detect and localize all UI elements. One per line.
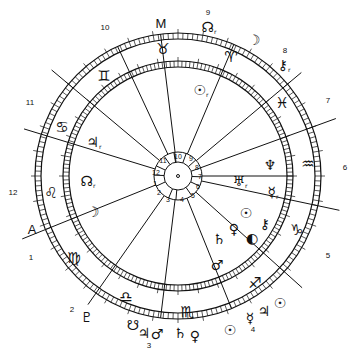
inner-degree-tick (66, 202, 72, 203)
outer-degree-tick (273, 73, 277, 77)
inner-degree-tick (83, 237, 88, 240)
retrograde-marker: r (276, 193, 278, 200)
inner-degree-tick (285, 152, 291, 153)
inner-house-number: 9 (189, 155, 193, 162)
outer-degree-tick (49, 113, 54, 116)
inner-house-number: 7 (198, 173, 202, 180)
ascendant-label: A (28, 223, 37, 236)
inner-degree-tick (283, 144, 289, 146)
outer-degree-tick (211, 309, 212, 315)
inner-degree-tick (83, 112, 88, 115)
outer-degree-tick (36, 195, 42, 196)
outer-degree-tick (120, 45, 122, 50)
outer-degree-tick (303, 232, 308, 234)
virgo-icon: ♍ (67, 251, 80, 266)
outer-house-number: 2 (70, 306, 74, 314)
inner-degree-tick (284, 148, 290, 149)
outer-degree-tick (289, 92, 294, 96)
inner-degree-tick (135, 277, 137, 283)
outer-degree-tick (292, 96, 297, 99)
outer-degree-tick (192, 34, 193, 40)
inner-degree-tick (283, 206, 289, 208)
inner-house-number: 2 (157, 189, 161, 196)
transit-venus-icon: ♀ (190, 329, 200, 343)
outer-degree-tick (33, 150, 43, 152)
inner-degree-tick (69, 210, 75, 212)
outer-degree-tick (143, 37, 144, 43)
outer-degree-tick (277, 271, 281, 275)
outer-degree-tick (305, 227, 311, 229)
natal-neptune-icon: ♆ (264, 158, 277, 172)
outer-degree-tick (90, 284, 94, 289)
outer-degree-tick (41, 137, 47, 139)
inner-degree-tick (270, 234, 275, 237)
inner-degree-tick (245, 262, 249, 267)
outer-degree-tick (36, 156, 42, 157)
inner-house-number: 6 (196, 183, 200, 190)
outer-degree-tick (90, 63, 94, 68)
transit-mars-2-icon: ♂ (151, 327, 164, 341)
outer-degree-tick (273, 275, 277, 279)
outer-degree-tick (45, 122, 51, 124)
natal-jupiter-icon: ♃r (86, 135, 101, 150)
outer-degree-tick (220, 40, 222, 46)
outer-degree-tick (111, 297, 114, 302)
inner-degree-tick (166, 284, 167, 290)
inner-degree-tick (276, 126, 281, 129)
inner-degree-tick (222, 276, 224, 281)
inner-degree-tick (66, 199, 72, 200)
inner-degree-tick (98, 254, 102, 258)
outer-degree-tick (39, 141, 45, 142)
inner-degree-tick (284, 202, 290, 203)
inner-degree-tick (254, 93, 258, 97)
inner-degree-tick (150, 64, 151, 70)
inner-house-number: 10 (174, 153, 182, 160)
outer-degree-tick (220, 306, 222, 312)
outer-degree-tick (102, 55, 105, 60)
inner-degree-tick (67, 144, 73, 146)
inner-degree-tick (242, 83, 246, 88)
outer-degree-tick (47, 232, 52, 234)
inner-degree-tick (162, 62, 163, 68)
inner-house-number: 12 (152, 169, 160, 176)
inner-degree-tick (85, 240, 90, 244)
outer-degree-tick (310, 214, 316, 216)
inner-degree-tick (286, 187, 292, 188)
retrograde-marker: r (214, 28, 216, 35)
inner-degree-tick (282, 140, 288, 142)
inner-degree-tick (117, 78, 120, 83)
outer-degree-tick (211, 37, 212, 43)
outer-degree-tick (251, 55, 254, 60)
inner-degree-tick (75, 126, 80, 129)
inner-degree-tick (131, 276, 133, 281)
outer-degree-tick (38, 204, 44, 205)
outer-degree-tick (82, 278, 86, 282)
transit-jupiter-icon: ♃ (258, 304, 271, 318)
outer-degree-tick (294, 100, 299, 103)
house-ring-divider (156, 182, 165, 186)
outer-degree-tick (280, 80, 284, 84)
inner-house-number: 5 (191, 192, 195, 199)
leo-icon: ♌ (44, 186, 57, 201)
outer-degree-tick (52, 240, 57, 243)
inner-degree-tick (286, 164, 292, 165)
inner-degree-tick (266, 240, 271, 244)
transit-chiron-icon: ⚷r (278, 58, 291, 73)
inner-degree-tick (264, 105, 269, 109)
inner-degree-tick (208, 281, 210, 287)
inner-degree-tick (212, 280, 214, 286)
inner-degree-tick (142, 280, 144, 286)
outer-degree-tick (148, 310, 149, 316)
outer-degree-tick (143, 309, 144, 315)
inner-degree-tick (212, 67, 214, 73)
inner-degree-tick (251, 91, 255, 95)
outer-degree-tick (47, 118, 52, 120)
outer-degree-tick (39, 209, 45, 210)
outer-degree-tick (134, 40, 136, 46)
outer-degree-tick (72, 268, 76, 272)
house-cusp-line (161, 200, 176, 318)
inner-degree-tick (204, 282, 205, 288)
outer-degree-tick (216, 39, 218, 45)
taurus-icon: ♉ (156, 42, 169, 57)
outer-degree-tick (139, 308, 141, 314)
